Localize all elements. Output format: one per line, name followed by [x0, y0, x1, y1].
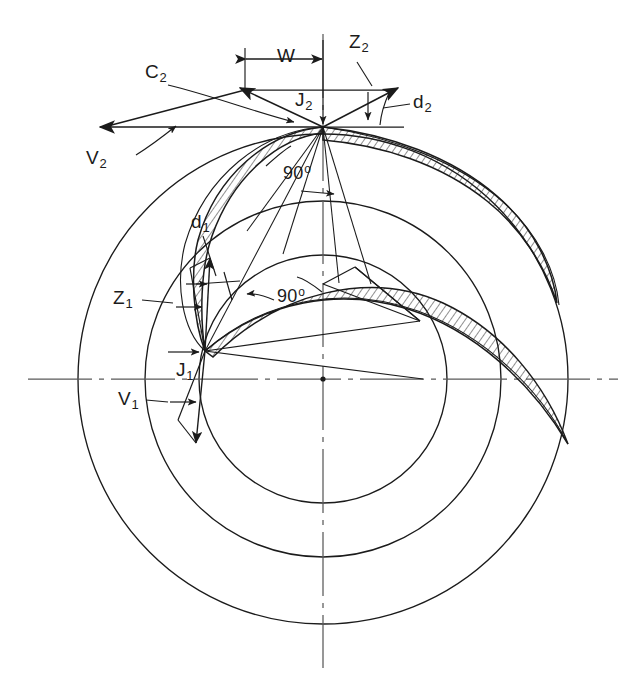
d2-leader: [383, 104, 410, 108]
label-v2: V2: [86, 148, 107, 170]
v2-leader: [136, 126, 176, 155]
camber-guide-3: [323, 127, 559, 305]
z1-leader: [142, 300, 173, 303]
label-d2: d2: [413, 92, 432, 114]
vector-z1: [205, 258, 210, 351]
angle-top-arrow: [301, 191, 334, 194]
vector-v1: [196, 351, 205, 443]
d1-tick-cross: [224, 272, 232, 300]
blade-3-profile: [205, 288, 568, 444]
v1-leader: [146, 400, 168, 402]
construction-rays-outlet: [205, 127, 371, 351]
outlet-triangle-closing-side: [104, 90, 245, 127]
label-j1: J1: [176, 360, 194, 382]
inlet-sliver-lower-bottom: [178, 420, 196, 443]
j2-component-arrows: [323, 92, 368, 124]
label-d1: d1: [191, 212, 210, 234]
d2-angle-arc: [380, 93, 389, 125]
label-z1: Z1: [113, 288, 133, 310]
blade-3: [205, 288, 568, 444]
inlet-construction: [205, 267, 423, 379]
diagram-canvas: [0, 0, 638, 692]
label-angle-bottom: 90o: [277, 286, 305, 305]
d2-angle-annotation: [380, 93, 410, 125]
label-z2: Z2: [349, 32, 369, 54]
center-point: [320, 376, 325, 381]
impeller-velocity-diagram: C2 V2 Z2 d2 J2 W d1 Z1 J1 V1 90o 90o: [0, 0, 638, 692]
blade-2: [323, 127, 557, 303]
label-v1: V1: [118, 389, 139, 411]
label-w: W: [277, 46, 295, 65]
angle-bottom-leader-left: [247, 294, 274, 300]
label-c2: C2: [145, 62, 167, 84]
label-j2: J2: [295, 90, 313, 112]
blade-2-profile: [323, 127, 557, 303]
z2-leader: [357, 62, 372, 86]
label-angle-top: 90o: [283, 163, 311, 182]
inlet-line-lower: [205, 351, 423, 379]
outlet-velocity-triangle: [100, 88, 404, 127]
ray-outlet-c: [323, 127, 339, 283]
